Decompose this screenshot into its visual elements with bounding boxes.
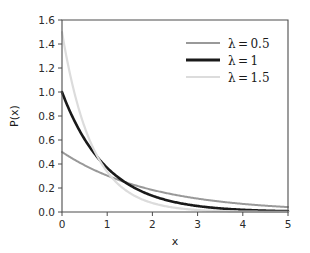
y-tick-label-0: 0.0 (38, 206, 55, 218)
y-tick-label-8: 1.6 (38, 14, 55, 26)
exponential-pdf-chart: 012345 0.00.20.40.60.81.01.21.41.6 x P(x… (0, 0, 310, 253)
legend-label-2: λ = 1.5 (228, 71, 270, 85)
legend-label-0: λ = 0.5 (228, 37, 270, 51)
y-tick-label-4: 0.8 (38, 110, 55, 122)
y-tick-label-3: 0.6 (38, 134, 55, 146)
x-tick-label-5: 5 (285, 218, 292, 230)
x-tick-label-3: 3 (194, 218, 201, 230)
x-tick-label-2: 2 (149, 218, 156, 230)
y-tick-label-6: 1.2 (38, 62, 55, 74)
y-axis-title: P(x) (8, 105, 21, 127)
y-tick-label-5: 1.0 (38, 86, 55, 98)
x-tick-label-1: 1 (104, 218, 111, 230)
x-tick-label-4: 4 (239, 218, 246, 230)
y-tick-label-7: 1.4 (38, 38, 55, 50)
y-tick-label-2: 0.4 (38, 158, 55, 170)
legend-label-1: λ = 1 (228, 54, 258, 68)
chart-legend: λ = 0.5λ = 1λ = 1.5 (186, 37, 270, 85)
y-tick-label-1: 0.2 (38, 182, 55, 194)
x-axis-title: x (172, 235, 179, 248)
figure-canvas: 012345 0.00.20.40.60.81.01.21.41.6 x P(x… (0, 0, 310, 253)
x-tick-label-0: 0 (59, 218, 66, 230)
